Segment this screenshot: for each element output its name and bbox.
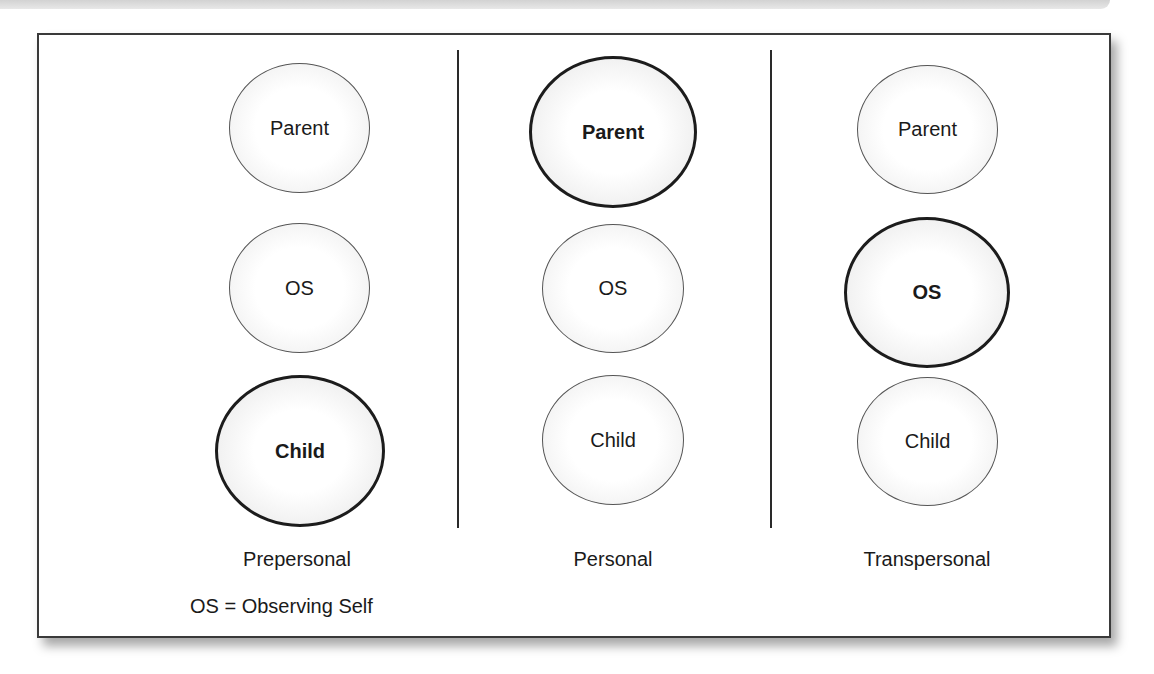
circle-label: Child <box>590 429 636 452</box>
legend-note: OS = Observing Self <box>190 595 373 618</box>
circle-label: OS <box>285 277 314 300</box>
circle-label: OS <box>913 281 942 304</box>
circle-personal-child: Child <box>542 375 684 505</box>
top-band <box>0 0 1110 9</box>
circle-label: OS <box>599 277 628 300</box>
circle-personal-os: OS <box>542 224 684 353</box>
circle-transpersonal-child: Child <box>857 377 998 506</box>
circle-prepersonal-parent: Parent <box>229 63 370 193</box>
circle-prepersonal-child-emphasized: Child <box>215 375 385 527</box>
circle-label: Parent <box>582 121 644 144</box>
circle-label: Parent <box>270 117 329 140</box>
circle-label: Child <box>905 430 951 453</box>
circle-transpersonal-parent: Parent <box>857 65 998 194</box>
circle-label: Child <box>275 440 325 463</box>
circle-personal-parent-emphasized: Parent <box>529 56 697 208</box>
circle-prepersonal-os: OS <box>229 223 370 353</box>
circle-label: Parent <box>898 118 957 141</box>
circle-transpersonal-os-emphasized: OS <box>844 217 1010 368</box>
column-divider <box>770 50 772 528</box>
column-label-prepersonal: Prepersonal <box>167 548 427 571</box>
column-divider <box>457 50 459 528</box>
column-label-personal: Personal <box>483 548 743 571</box>
column-label-transpersonal: Transpersonal <box>797 548 1057 571</box>
